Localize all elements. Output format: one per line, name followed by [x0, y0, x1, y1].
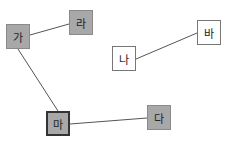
node-label: 다	[154, 110, 164, 126]
node-ma[interactable]: 마	[46, 111, 70, 136]
edge-ga-ma	[18, 49, 58, 111]
node-ga[interactable]: 가	[6, 24, 30, 49]
node-ba[interactable]: 바	[197, 20, 221, 45]
node-label: 바	[204, 25, 214, 41]
edges-layer	[0, 0, 227, 145]
edge-na-ba	[136, 33, 197, 59]
node-label: 라	[76, 15, 86, 31]
node-na[interactable]: 나	[112, 46, 136, 71]
node-ra[interactable]: 라	[69, 10, 93, 35]
edge-ma-da	[70, 118, 147, 124]
node-label: 나	[119, 51, 129, 67]
node-label: 가	[13, 29, 23, 45]
edge-ga-ra	[30, 24, 69, 35]
node-da[interactable]: 다	[147, 105, 171, 130]
node-label: 마	[53, 116, 63, 132]
